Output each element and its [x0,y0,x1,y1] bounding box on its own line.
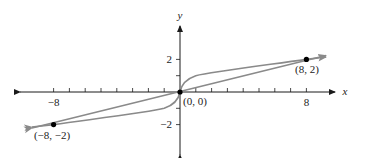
x-axis-label: x [342,85,348,97]
point-neg8-neg2 [51,122,56,127]
label-origin: (0, 0) [183,95,207,108]
point-origin [177,89,182,94]
x-tick-label-8: 8 [304,96,310,108]
point-8-2 [304,57,309,62]
y-axis-label: y [177,9,183,21]
y-axis: 2 −2 y [160,9,182,155]
x-tick-label-neg8: −8 [48,96,60,108]
label-8-2: (8, 2) [295,63,319,76]
graph-svg: −8 8 x 2 −2 y (0, 0) (8, 2) (−8 [0,0,366,158]
chart-container: −8 8 x 2 −2 y (0, 0) (8, 2) (−8 [0,0,366,158]
label-neg8-neg2: (−8, −2) [34,129,71,142]
y-tick-label-neg2: −2 [160,118,172,130]
y-tick-label-2: 2 [167,53,173,65]
